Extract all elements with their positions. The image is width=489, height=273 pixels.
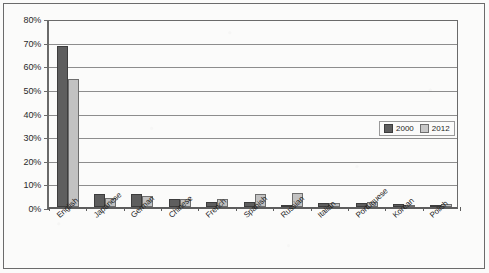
bar-chart-figure: 0%10%20%30%40%50%60%70%80% EnglishJapane… (0, 0, 489, 273)
y-axis-label: 80% (24, 15, 41, 25)
bar-group (317, 20, 341, 207)
x-axis-tick (311, 207, 312, 211)
x-axis-tick (273, 207, 274, 211)
y-axis-label: 0% (28, 204, 41, 214)
x-axis-tick (236, 207, 237, 211)
bar-group (93, 20, 117, 207)
legend-item-2000: 2000 (384, 124, 414, 133)
bar-english-2012 (68, 79, 79, 207)
bar-group (280, 20, 304, 207)
bar-group (205, 20, 229, 207)
bar-group (168, 20, 192, 207)
bar-group (243, 20, 267, 207)
y-axis-label: 20% (24, 157, 41, 167)
bar-group (392, 20, 416, 207)
chart-legend: 2000 2012 (379, 121, 455, 136)
y-axis-label: 50% (24, 86, 41, 96)
bar-group (130, 20, 154, 207)
legend-label-2012: 2012 (432, 124, 450, 133)
plot-area: 0%10%20%30%40%50%60%70%80% (47, 20, 458, 209)
x-axis-tick (460, 207, 461, 211)
x-axis-tick (49, 207, 50, 211)
bar-group (56, 20, 80, 207)
bar-group (429, 20, 453, 207)
y-axis-label: 70% (24, 39, 41, 49)
bar-group (355, 20, 379, 207)
x-axis-tick (348, 207, 349, 211)
x-axis-tick (124, 207, 125, 211)
legend-label-2000: 2000 (396, 124, 414, 133)
bars-group (49, 20, 457, 207)
y-axis-label: 60% (24, 62, 41, 72)
y-axis-label: 40% (24, 110, 41, 120)
x-axis-tick (423, 207, 424, 211)
y-axis-label: 30% (24, 133, 41, 143)
bar-english-2000 (57, 46, 68, 207)
x-axis-tick (198, 207, 199, 211)
x-axis-tick (385, 207, 386, 211)
light-gray-swatch-icon (420, 124, 429, 133)
x-axis-tick (161, 207, 162, 211)
legend-item-2012: 2012 (420, 124, 450, 133)
y-axis-label: 10% (24, 180, 41, 190)
x-axis-tick (86, 207, 87, 211)
dark-gray-swatch-icon (384, 124, 393, 133)
